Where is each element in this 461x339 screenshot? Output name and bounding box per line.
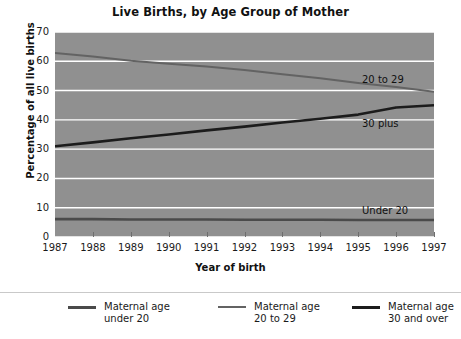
legend-label: Maternal ageunder 20 (104, 301, 170, 325)
legend-label-line2: 30 and over (388, 313, 454, 325)
x-tick-mark (396, 232, 397, 237)
x-tick-mark (358, 232, 359, 237)
y-tick-label: 70 (5, 27, 49, 37)
x-axis-title: Year of birth (0, 262, 461, 273)
y-tick-label: 40 (5, 115, 49, 125)
series-line-under-20 (55, 219, 434, 220)
series-annotation-under-20: Under 20 (362, 206, 408, 216)
y-tick-label: 30 (5, 144, 49, 154)
chart-figure: Live Births, by Age Group of Mother Perc… (0, 0, 461, 339)
x-tick-mark (282, 232, 283, 237)
legend-divider (0, 292, 461, 293)
legend-label: Maternal age30 and over (388, 301, 454, 325)
x-tick-mark (207, 232, 208, 237)
series-annotation-30-plus: 30 plus (362, 119, 399, 129)
y-tick-label: 60 (5, 56, 49, 66)
x-tick-label: 1997 (412, 243, 456, 253)
legend-label-line2: 20 to 29 (254, 313, 320, 325)
x-tick-mark (320, 232, 321, 237)
x-tick-mark (131, 232, 132, 237)
legend-label-line1: Maternal age (254, 301, 320, 313)
legend-label-line2: under 20 (104, 313, 170, 325)
x-tick-mark (434, 232, 435, 237)
x-tick-mark (169, 232, 170, 237)
legend-label: Maternal age20 to 29 (254, 301, 320, 325)
legend-swatch (68, 306, 96, 309)
chart-legend: Maternal ageunder 20Maternal age20 to 29… (0, 292, 461, 336)
y-tick-label: 50 (5, 86, 49, 96)
y-tick-label: 0 (5, 232, 49, 242)
legend-swatch (218, 306, 246, 308)
legend-swatch (352, 306, 380, 309)
series-annotation-20-to-29: 20 to 29 (362, 75, 404, 85)
x-tick-mark (93, 232, 94, 237)
legend-label-line1: Maternal age (388, 301, 454, 313)
chart-title: Live Births, by Age Group of Mother (0, 5, 461, 19)
y-tick-label: 10 (5, 203, 49, 213)
x-tick-mark (245, 232, 246, 237)
y-tick-label: 20 (5, 173, 49, 183)
legend-label-line1: Maternal age (104, 301, 170, 313)
series-line-20-to-29 (55, 53, 434, 92)
